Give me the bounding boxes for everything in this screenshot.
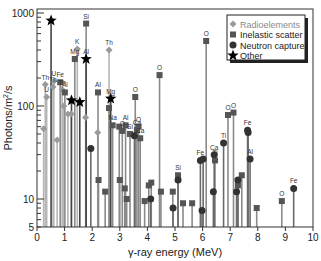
- x-axis: 012345678910: [34, 227, 319, 243]
- inelastic-marker-square: [254, 205, 260, 211]
- capture-marker-circle: [210, 188, 217, 195]
- x-tick-label: 8: [255, 232, 261, 243]
- inelastic-marker-square: [212, 157, 218, 163]
- radioelement-marker-diamond: [43, 93, 50, 100]
- element-label: O: [225, 104, 230, 111]
- inelastic-marker-square: [106, 105, 112, 111]
- element-label: Al: [247, 148, 253, 155]
- capture-marker-circle: [170, 205, 177, 212]
- legend-label: Neutron capture: [240, 41, 305, 51]
- x-tick-label: 6: [200, 232, 206, 243]
- element-label: K: [75, 38, 80, 45]
- capture-marker-circle: [199, 207, 206, 214]
- element-label: Na: [108, 114, 117, 121]
- x-axis-label: γ-ray energy (MeV): [128, 246, 222, 258]
- radioelement-marker-diamond: [106, 47, 113, 54]
- element-label: Al: [83, 48, 89, 55]
- element-label: O: [157, 64, 162, 71]
- element-label: Si: [83, 13, 89, 20]
- inelastic-marker-square: [189, 200, 195, 206]
- inelastic-marker-square: [110, 122, 116, 128]
- element-label: U: [44, 86, 49, 93]
- inelastic-marker-square: [279, 198, 285, 204]
- inelastic-marker-square: [62, 89, 68, 95]
- inelastic-marker-square: [231, 110, 237, 116]
- element-label: Fe: [197, 149, 205, 156]
- y-axis: 5101001000: [12, 8, 44, 233]
- inelastic-marker-square: [83, 21, 89, 27]
- inelastic-marker-square: [180, 200, 186, 206]
- legend-circle-icon: [230, 42, 237, 49]
- element-label: Th: [105, 39, 113, 46]
- x-tick-label: 10: [307, 232, 319, 243]
- radioelement-marker-diamond: [82, 114, 89, 121]
- inelastic-marker-square: [170, 189, 176, 195]
- inelastic-marker-square: [102, 189, 108, 195]
- capture-marker-circle: [233, 188, 240, 195]
- element-label: Ti: [221, 132, 226, 139]
- capture-marker-circle: [147, 196, 154, 203]
- element-label: O: [231, 102, 236, 109]
- inelastic-marker-square: [157, 72, 163, 78]
- element-label: Mg: [70, 48, 79, 56]
- capture-marker-circle: [175, 177, 182, 184]
- inelastic-marker-square: [225, 112, 231, 118]
- element-label: Al: [62, 81, 68, 88]
- element-label: Al: [95, 81, 101, 88]
- element-label: O: [204, 30, 209, 37]
- element-label: Fe: [290, 177, 298, 184]
- element-label: Ca: [210, 144, 219, 151]
- radioelement-marker-diamond: [94, 129, 101, 136]
- legend: RadioelementsInelastic scatterNeutron ca…: [227, 15, 308, 63]
- element-label: Mg: [106, 88, 115, 96]
- x-tick-label: 5: [172, 232, 178, 243]
- x-tick-label: 9: [283, 232, 289, 243]
- inelastic-marker-square: [132, 94, 138, 100]
- element-label: Fe: [56, 71, 64, 78]
- x-tick-label: 2: [89, 232, 95, 243]
- element-label: O: [279, 190, 284, 197]
- y-axis-label: Photons/m2/s: [2, 85, 14, 151]
- x-tick-label: 7: [227, 232, 233, 243]
- inelastic-marker-square: [95, 89, 101, 95]
- capture-marker-circle: [234, 177, 241, 184]
- y-tick-label: 1000: [12, 8, 35, 19]
- inelastic-marker-square: [117, 177, 123, 183]
- x-tick-label: 1: [62, 232, 68, 243]
- element-label: Fe: [244, 119, 252, 126]
- capture-marker-circle: [220, 140, 227, 147]
- capture-marker-circle: [87, 145, 94, 152]
- legend-label: Inelastic scatter: [240, 30, 303, 40]
- x-tick-label: 3: [117, 232, 123, 243]
- capture-marker-circle: [200, 155, 207, 162]
- y-tick-label: 5: [28, 222, 34, 233]
- x-tick-label: 0: [34, 232, 40, 243]
- capture-marker-circle: [247, 155, 254, 162]
- capture-marker-circle: [245, 129, 252, 136]
- inelastic-marker-square: [72, 56, 78, 62]
- x-tick-label: 4: [145, 232, 151, 243]
- inelastic-marker-square: [124, 196, 130, 202]
- element-label: Si: [175, 164, 181, 171]
- element-label: Al: [123, 114, 129, 121]
- legend-square-icon: [230, 32, 236, 38]
- gamma-ray-spectrum-chart: ThUUThThKThFeAlMgSiAlNaOAlSiOCaOCaOSiOTi…: [0, 0, 321, 261]
- inelastic-marker-square: [158, 189, 164, 195]
- element-label: Ca: [136, 127, 145, 134]
- element-label: O: [136, 116, 141, 123]
- inelastic-marker-square: [122, 185, 128, 191]
- inelastic-marker-square: [203, 38, 209, 44]
- capture-marker-circle: [290, 185, 297, 192]
- inelastic-marker-square: [119, 128, 125, 134]
- y-tick-label: 10: [23, 194, 35, 205]
- element-label: O: [133, 86, 138, 93]
- inelastic-marker-square: [137, 135, 143, 141]
- inelastic-marker-square: [148, 180, 154, 186]
- legend-label: Other: [240, 51, 263, 61]
- inelastic-marker-square: [142, 198, 148, 204]
- legend-label: Radioelements: [240, 20, 301, 30]
- inelastic-marker-square: [96, 177, 102, 183]
- y-tick-label: 100: [17, 101, 34, 112]
